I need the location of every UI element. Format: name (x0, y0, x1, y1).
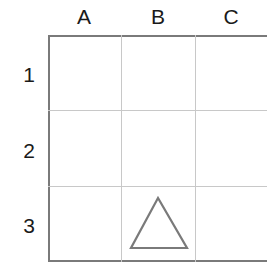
row-label-3: 3 (23, 215, 35, 236)
column-label-c: C (223, 6, 238, 27)
column-label-b: B (151, 6, 165, 27)
grid-divider-horizontal-12 (48, 110, 267, 111)
grid-divider-vertical-ab (121, 35, 122, 262)
grid-border (48, 35, 267, 262)
row-label-2: 2 (23, 140, 35, 161)
row-label-1: 1 (23, 64, 35, 85)
grid-divider-vertical-bc (195, 35, 196, 262)
column-label-a: A (77, 6, 91, 27)
grid-divider-horizontal-23 (48, 186, 267, 187)
